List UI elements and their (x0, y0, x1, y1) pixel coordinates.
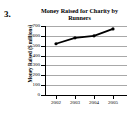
y-tick-label-300: 300 (24, 62, 40, 67)
x-tick-label-2005: 2005 (102, 100, 124, 105)
data-point-2005 (111, 27, 114, 30)
y-tick-label-100: 100 (24, 82, 40, 87)
series-polyline (56, 29, 113, 44)
data-series-line (45, 26, 127, 96)
y-tick-label-500: 500 (24, 43, 40, 48)
y-tick-label-600: 600 (24, 33, 40, 38)
chart-title: Money Raised for Charity by Runners (29, 8, 130, 21)
chart-figure: 3. Money Raised for Charity by Runners M… (0, 0, 132, 113)
data-point-2003 (73, 36, 76, 39)
y-tick-label-700: 700 (24, 23, 40, 28)
data-point-2004 (92, 34, 95, 37)
line-chart: Money Raised for Charity by Runners Mone… (24, 7, 130, 111)
y-tick-label-400: 400 (24, 53, 40, 58)
data-point-2002 (54, 42, 57, 45)
y-tick-label-0: 0 (24, 92, 40, 97)
chart-title-line-2: Runners (29, 15, 130, 22)
y-tick-label-200: 200 (24, 72, 40, 77)
problem-number-label: 3. (4, 10, 11, 19)
